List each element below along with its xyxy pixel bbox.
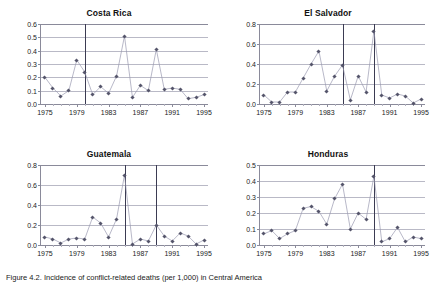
x-axis-tick-label: 1995 (413, 250, 429, 257)
y-axis-tick-mark (38, 245, 41, 246)
y-axis-tick-label: 0.0 (246, 242, 256, 249)
x-axis-tick-label: 1987 (350, 109, 366, 116)
x-axis-tick-mark (421, 245, 422, 248)
x-axis-minor-tick (69, 245, 70, 247)
x-axis-tick-label: 1983 (101, 250, 117, 257)
x-axis-minor-tick (272, 245, 273, 247)
y-axis-tick-mark (38, 104, 41, 105)
x-axis-minor-tick (335, 104, 336, 106)
x-axis-tick-label: 1979 (288, 109, 304, 116)
y-axis-tick-label: 0.3 (27, 61, 37, 68)
y-axis-tick-label: 0.4 (27, 47, 37, 54)
x-axis-tick-label: 1991 (164, 250, 180, 257)
x-axis-minor-tick (319, 245, 320, 247)
panel-title: Guatemala (0, 149, 218, 159)
x-axis-minor-tick (117, 104, 118, 106)
y-axis-tick-label: 0.8 (27, 162, 37, 169)
x-axis-tick-mark (295, 245, 296, 248)
x-axis-minor-tick (148, 104, 149, 106)
x-axis-tick-mark (204, 245, 205, 248)
y-axis-tick-label: 0.6 (27, 182, 37, 189)
x-axis-tick-mark (264, 104, 265, 107)
x-axis-tick-mark (77, 104, 78, 107)
x-axis-minor-tick (335, 245, 336, 247)
x-axis-tick-label: 1995 (413, 109, 429, 116)
x-axis-tick-mark (390, 104, 391, 107)
x-axis-tick-mark (358, 245, 359, 248)
x-axis-minor-tick (61, 245, 62, 247)
x-axis-minor-tick (93, 104, 94, 106)
x-axis-tick-label: 1975 (256, 250, 272, 257)
x-axis-tick-label: 1983 (319, 109, 335, 116)
x-axis-minor-tick (101, 245, 102, 247)
x-axis-minor-tick (382, 104, 383, 106)
x-axis-minor-tick (164, 104, 165, 106)
y-axis-tick-mark (257, 245, 260, 246)
x-axis-minor-tick (350, 104, 351, 106)
x-axis-minor-tick (164, 245, 165, 247)
x-axis-minor-tick (398, 245, 399, 247)
y-axis-tick-label: 0.3 (246, 194, 256, 201)
x-axis-minor-tick (374, 104, 375, 106)
data-point-marker (186, 234, 190, 238)
x-axis-minor-tick (93, 245, 94, 247)
x-axis-minor-tick (156, 104, 157, 106)
x-axis-tick-label: 1991 (382, 250, 398, 257)
x-axis-minor-tick (319, 104, 320, 106)
x-axis-tick-label: 1987 (133, 250, 149, 257)
y-axis-tick-label: 0.0 (246, 101, 256, 108)
x-axis-minor-tick (132, 104, 133, 106)
x-axis-minor-tick (350, 245, 351, 247)
x-axis-tick-mark (109, 245, 110, 248)
y-axis-tick-label: 0.8 (246, 21, 256, 28)
x-axis-minor-tick (374, 245, 375, 247)
x-axis-minor-tick (53, 245, 54, 247)
y-axis-tick-label: 0.4 (246, 178, 256, 185)
data-point-marker (202, 238, 206, 242)
x-axis-minor-tick (398, 104, 399, 106)
data-point-marker (364, 90, 368, 94)
x-axis-minor-tick (61, 104, 62, 106)
chart-panel-el-salvador: El Salvador 0.00.20.40.60.81975197919831… (219, 0, 437, 141)
x-axis-tick-label: 1995 (196, 250, 212, 257)
x-axis-tick-label: 1991 (164, 109, 180, 116)
plot-area: 0.00.10.20.30.40.50.61975197919831987199… (40, 24, 208, 105)
x-axis-tick-label: 1975 (256, 109, 272, 116)
x-axis-tick-mark (295, 104, 296, 107)
x-axis-minor-tick (303, 245, 304, 247)
y-axis-tick-mark (257, 104, 260, 105)
y-axis-tick-label: 0.5 (27, 34, 37, 41)
figure-caption: Figure 4.2. Incidence of conflict-relate… (6, 273, 431, 284)
panel-title: Costa Rica (0, 8, 218, 18)
x-axis-minor-tick (366, 104, 367, 106)
y-axis-tick-label: 0.6 (27, 21, 37, 28)
x-axis-minor-tick (101, 104, 102, 106)
x-axis-minor-tick (343, 245, 344, 247)
x-axis-tick-mark (264, 245, 265, 248)
x-axis-minor-tick (288, 104, 289, 106)
x-axis-tick-label: 1975 (37, 109, 53, 116)
x-axis-tick-mark (204, 104, 205, 107)
x-axis-minor-tick (53, 104, 54, 106)
chart-panel-honduras: Honduras 0.00.10.20.30.40.51975197919831… (219, 141, 437, 282)
x-axis-tick-mark (45, 104, 46, 107)
data-point-marker (419, 97, 423, 101)
y-axis-tick-label: 0.4 (27, 202, 37, 209)
chart-panel-guatemala: Guatemala 0.00.20.40.60.8197519791983198… (0, 141, 218, 282)
y-axis-tick-label: 0.0 (27, 242, 37, 249)
x-axis-tick-label: 1987 (350, 250, 366, 257)
x-axis-minor-tick (280, 245, 281, 247)
y-axis-tick-label: 0.1 (246, 226, 256, 233)
x-axis-tick-mark (327, 245, 328, 248)
y-axis-tick-label: 0.4 (246, 61, 256, 68)
x-axis-minor-tick (303, 104, 304, 106)
plot-area: 0.00.10.20.30.40.51975197919831987199119… (259, 165, 425, 246)
x-axis-tick-mark (77, 245, 78, 248)
x-axis-tick-mark (172, 245, 173, 248)
data-point-marker (309, 62, 313, 66)
panel-title: El Salvador (219, 8, 437, 18)
x-axis-minor-tick (69, 104, 70, 106)
x-axis-minor-tick (156, 245, 157, 247)
panel-title: Honduras (219, 149, 437, 159)
x-axis-minor-tick (180, 104, 181, 106)
